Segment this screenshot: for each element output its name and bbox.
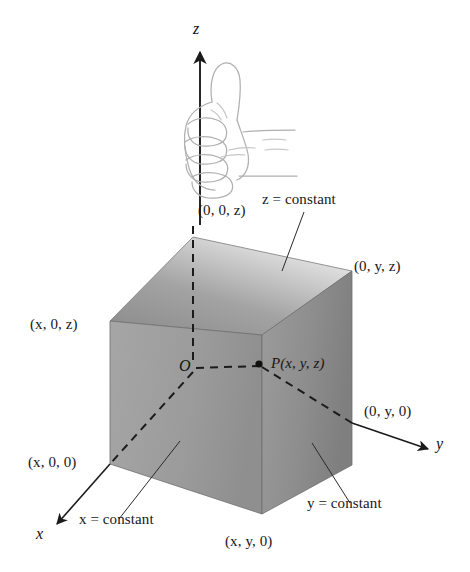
label-x-constant: x = constant xyxy=(79,512,154,527)
label-0-0-z: (0, 0, z) xyxy=(198,203,246,218)
point-p-label: P(x, y, z) xyxy=(271,356,324,371)
label-y-constant: y = constant xyxy=(307,496,382,511)
y-axis-line xyxy=(352,423,428,449)
thumbs-up-hand-icon xyxy=(155,58,330,208)
origin-label: O xyxy=(179,358,191,374)
point-p-marker xyxy=(255,360,262,367)
cube-left-face xyxy=(110,321,262,514)
label-x-0-z: (x, 0, z) xyxy=(30,317,78,332)
cube-solid xyxy=(110,237,352,514)
y-axis-label: y xyxy=(436,436,443,452)
label-0-y-0: (0, y, 0) xyxy=(364,404,411,419)
z-axis-label: z xyxy=(193,21,199,37)
label-0-y-z: (0, y, z) xyxy=(354,259,401,274)
coordinate-system-figure: z y x O P(x, y, z) (0, 0, z) (0, y, z) (… xyxy=(0,0,470,572)
label-x-y-0: (x, y, 0) xyxy=(225,534,272,549)
label-z-constant: z = constant xyxy=(262,192,336,207)
x-axis-label: x xyxy=(36,526,43,542)
label-x-0-0: (x, 0, 0) xyxy=(28,455,76,470)
